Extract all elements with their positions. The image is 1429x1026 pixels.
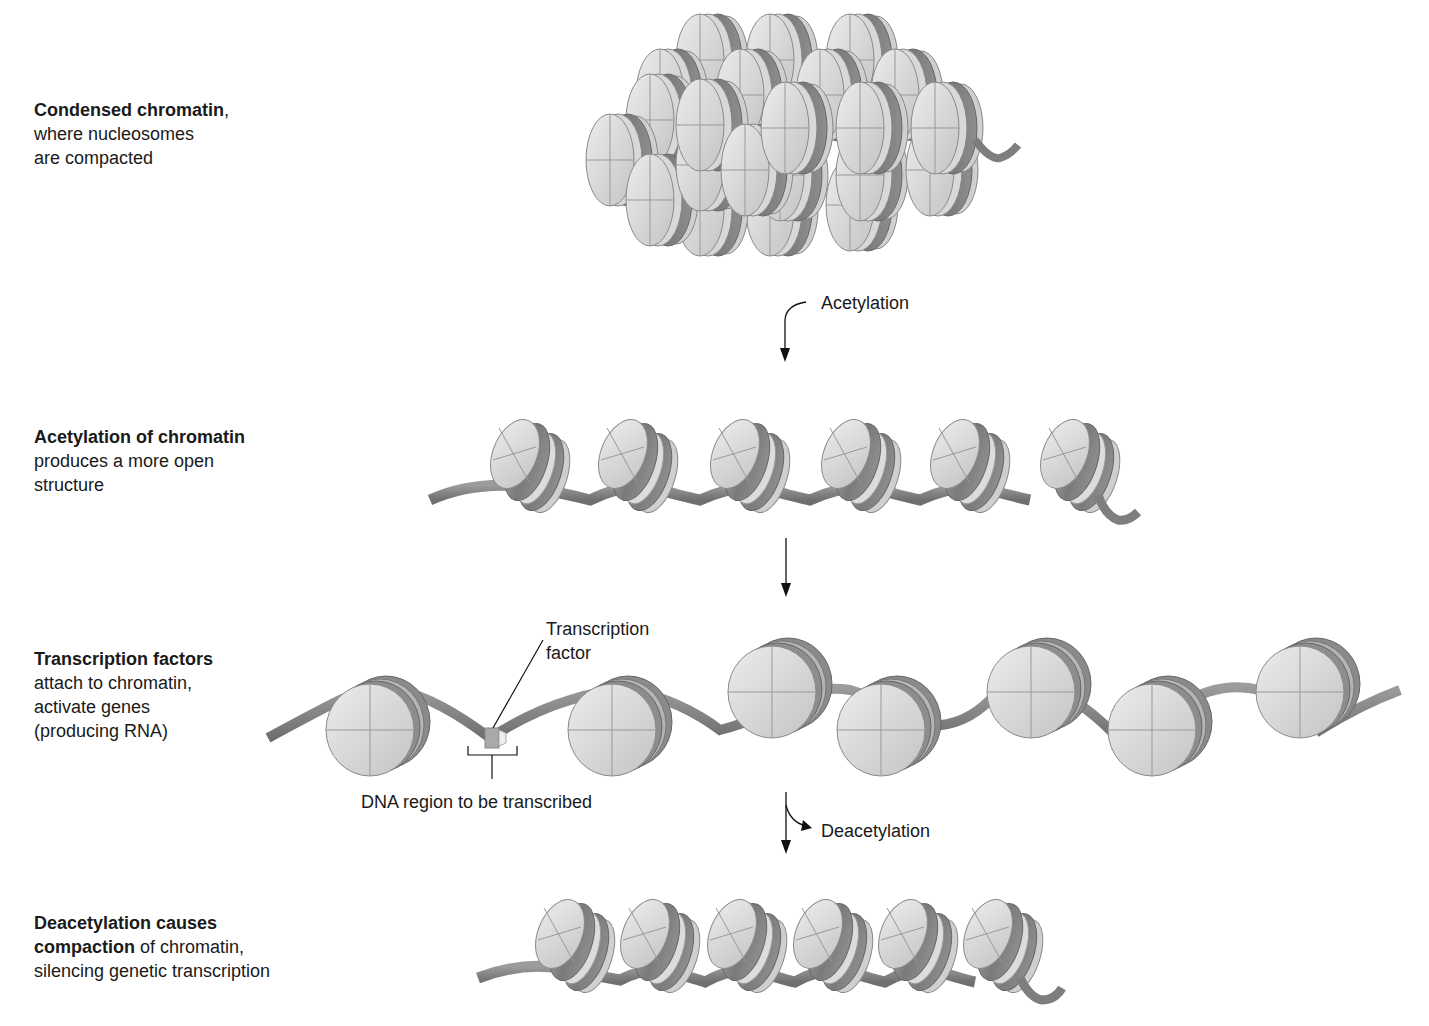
deacetylation-arrow xyxy=(781,792,812,854)
arrowhead-icon xyxy=(801,820,812,831)
plain-arrow xyxy=(781,538,791,597)
acetylation-arrow xyxy=(780,302,806,362)
arrowhead-icon xyxy=(781,583,791,597)
chromatin-diagram xyxy=(0,0,1429,1026)
acetylated-chromatin-fiber xyxy=(430,412,1138,520)
transcription-chromatin-fiber xyxy=(268,638,1400,779)
transcription-factor-box xyxy=(485,728,499,748)
arrowhead-icon xyxy=(781,840,791,854)
deacetylated-chromatin-fiber xyxy=(478,892,1062,1000)
condensed-chromatin-cluster xyxy=(586,14,1018,256)
dna-region-bracket xyxy=(468,746,517,779)
arrowhead-icon xyxy=(780,348,790,362)
